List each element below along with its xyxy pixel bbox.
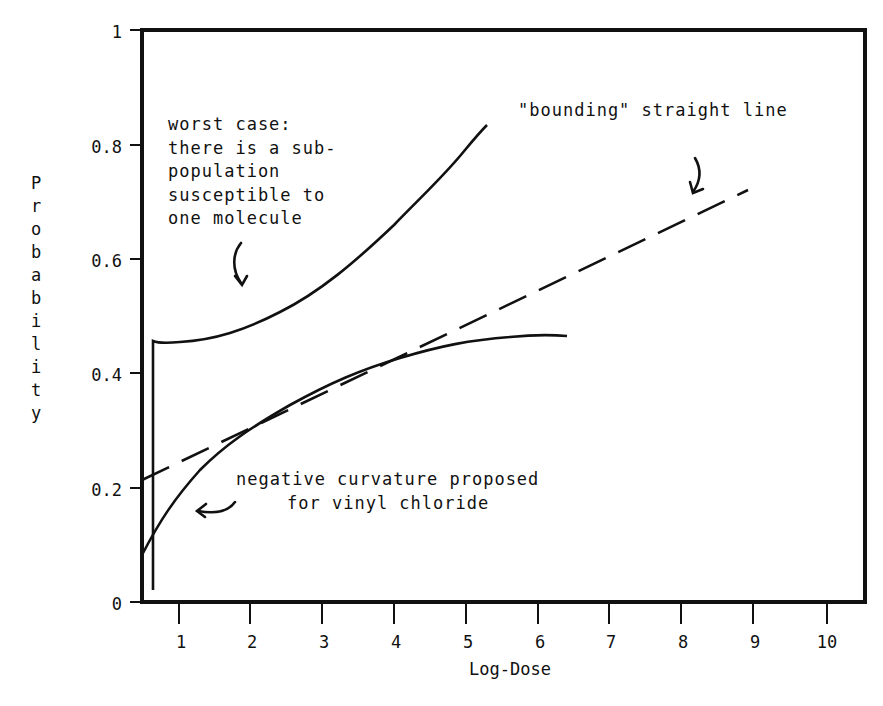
y-tick-label: 0.6 [91, 251, 122, 271]
y-axis-title-char: o [31, 219, 41, 239]
x-tick-label: 8 [678, 632, 688, 652]
chart-canvas: 0 0.2 0.4 0.6 0.8 1 1 2 3 4 5 6 7 8 9 10… [0, 0, 883, 706]
y-axis-title-char: y [31, 403, 41, 423]
y-axis-title-char: P [31, 173, 41, 193]
annotation-text: there is a sub- [168, 138, 337, 158]
arrow-icon [234, 243, 247, 285]
x-tick-label: 1 [176, 632, 186, 652]
y-axis-title-char: b [31, 288, 41, 308]
series-bounding-straight-line [142, 190, 748, 480]
annotation-worst-case: worst case: there is a sub- population s… [168, 114, 337, 228]
annotation-text: negative curvature proposed [236, 469, 539, 489]
x-tick-label: 4 [391, 632, 401, 652]
arrow-icon [197, 502, 235, 517]
annotation-text: for vinyl chloride [287, 493, 489, 513]
y-tick-label: 0.8 [91, 137, 122, 157]
x-tick-label: 6 [535, 632, 545, 652]
x-axis-ticks [179, 604, 827, 624]
annotation-text: worst case: [168, 114, 292, 134]
y-tick-label: 0.2 [91, 480, 122, 500]
arrow-icon [690, 158, 703, 193]
y-axis-title: P r o b a b i l i t y [31, 173, 41, 423]
y-axis-title-char: a [31, 265, 41, 285]
y-axis-title-char: b [31, 242, 41, 262]
x-tick-label: 9 [750, 632, 760, 652]
y-tick-label: 1 [112, 22, 122, 42]
annotation-text: one molecule [168, 208, 303, 228]
y-axis-title-char: i [31, 311, 41, 331]
y-axis-title-char: t [31, 380, 41, 400]
y-axis-title-char: l [31, 334, 41, 354]
x-axis-tick-labels: 1 2 3 4 5 6 7 8 9 10 [176, 632, 837, 652]
x-tick-label: 2 [247, 632, 257, 652]
annotation-vinyl-chloride: negative curvature proposed for vinyl ch… [236, 469, 539, 513]
y-tick-label: 0 [112, 594, 122, 614]
annotation-bounding: "bounding" straight line [518, 100, 788, 120]
y-axis-title-char: r [31, 196, 41, 216]
series-vinyl-chloride-curve [142, 335, 567, 555]
y-tick-label: 0.4 [91, 365, 122, 385]
y-axis-tick-labels: 0 0.2 0.4 0.6 0.8 1 [91, 22, 122, 614]
x-tick-label: 5 [463, 632, 473, 652]
annotation-text: susceptible to [168, 185, 325, 205]
y-axis-title-char: i [31, 357, 41, 377]
annotation-text: population [168, 161, 280, 181]
x-tick-label: 7 [606, 632, 616, 652]
x-tick-label: 3 [319, 632, 329, 652]
x-axis-title: Log-Dose [469, 659, 551, 679]
x-tick-label: 10 [817, 632, 837, 652]
